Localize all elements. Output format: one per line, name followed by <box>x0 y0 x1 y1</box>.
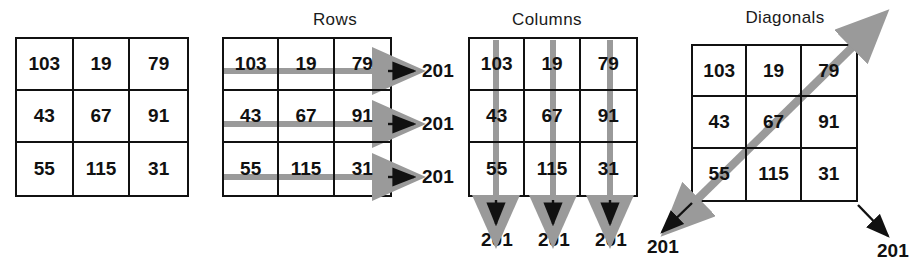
grid-cell: 67 <box>74 91 131 143</box>
magic-square-grid-diagonals: 103 19 79 43 67 91 55 115 31 <box>691 44 858 202</box>
cell-value: 19 <box>763 60 784 82</box>
panel-diagonals: Diagonals 103 19 79 43 67 91 55 115 31 2… <box>645 0 921 269</box>
grid-cell: 55 <box>224 143 279 195</box>
cell-value: 55 <box>709 163 730 185</box>
cell-value: 115 <box>291 158 322 180</box>
grid-cell: 19 <box>74 39 131 91</box>
column-sum-label: 201 <box>481 229 513 251</box>
cell-value: 79 <box>352 53 373 75</box>
cell-value: 19 <box>541 53 562 75</box>
cell-value: 91 <box>148 105 169 127</box>
grid-cell: 79 <box>335 39 390 91</box>
diagonal-sum-label: 201 <box>877 240 909 262</box>
grid-cell: 115 <box>279 143 334 195</box>
cell-value: 43 <box>709 111 730 133</box>
cell-value: 103 <box>28 53 60 75</box>
row-sum-label: 201 <box>422 166 454 188</box>
grid-cell: 55 <box>470 143 525 195</box>
cell-value: 115 <box>537 158 568 180</box>
cell-value: 19 <box>90 53 111 75</box>
panel-rows: Rows 103 19 79 43 67 91 55 115 31 201 20… <box>215 0 465 269</box>
grid-cell: 43 <box>470 91 525 143</box>
cell-value: 43 <box>34 105 55 127</box>
cell-value: 31 <box>598 158 619 180</box>
grid-cell: 67 <box>525 91 580 143</box>
cell-value: 55 <box>486 158 507 180</box>
grid-cell: 91 <box>581 91 636 143</box>
grid-cell: 91 <box>802 97 856 148</box>
cell-value: 31 <box>148 158 169 180</box>
panel-plain-square: 103 19 79 43 67 91 55 115 31 <box>0 0 215 269</box>
grid-cell: 115 <box>747 149 801 200</box>
panel-title-diagonals: Diagonals <box>690 8 880 28</box>
grid-cell: 43 <box>693 97 747 148</box>
grid-cell: 79 <box>130 39 187 91</box>
grid-cell: 103 <box>224 39 279 91</box>
grid-cell: 19 <box>279 39 334 91</box>
grid-cell: 55 <box>693 149 747 200</box>
grid-cell: 79 <box>581 39 636 91</box>
cell-value: 67 <box>295 105 316 127</box>
cell-value: 67 <box>763 111 784 133</box>
cell-value: 79 <box>148 53 169 75</box>
grid-cell: 31 <box>802 149 856 200</box>
cell-value: 103 <box>703 60 735 82</box>
grid-cell: 43 <box>17 91 74 143</box>
cell-value: 103 <box>481 53 513 75</box>
panel-title-columns: Columns <box>452 10 642 30</box>
cell-value: 91 <box>818 111 839 133</box>
cell-value: 67 <box>541 105 562 127</box>
cell-value: 31 <box>818 163 839 185</box>
grid-cell: 31 <box>335 143 390 195</box>
row-sum-label: 201 <box>422 60 454 82</box>
cell-value: 43 <box>240 105 261 127</box>
grid-cell: 79 <box>802 46 856 97</box>
grid-cell: 91 <box>130 91 187 143</box>
grid-cell: 31 <box>581 143 636 195</box>
magic-square-grid-plain: 103 19 79 43 67 91 55 115 31 <box>15 37 189 197</box>
cell-value: 79 <box>818 60 839 82</box>
grid-cell: 103 <box>693 46 747 97</box>
grid-cell: 103 <box>17 39 74 91</box>
cell-value: 43 <box>486 105 507 127</box>
column-sum-label: 201 <box>595 229 627 251</box>
grid-cell: 31 <box>130 143 187 195</box>
cell-value: 103 <box>235 53 267 75</box>
row-sum-label: 201 <box>422 113 454 135</box>
grid-cell: 91 <box>335 91 390 143</box>
cell-value: 91 <box>352 105 373 127</box>
grid-cell: 19 <box>747 46 801 97</box>
magic-square-grid-rows: 103 19 79 43 67 91 55 115 31 <box>222 37 392 197</box>
cell-value: 19 <box>295 53 316 75</box>
cell-value: 55 <box>240 158 261 180</box>
grid-cell: 103 <box>470 39 525 91</box>
column-sum-label: 201 <box>538 229 570 251</box>
diagonal-sum-label: 201 <box>647 236 679 258</box>
cell-value: 115 <box>758 163 789 185</box>
magic-square-grid-columns: 103 19 79 43 67 91 55 115 31 <box>468 37 638 197</box>
cell-value: 91 <box>598 105 619 127</box>
cell-value: 55 <box>34 158 55 180</box>
cell-value: 67 <box>90 105 111 127</box>
cell-value: 79 <box>598 53 619 75</box>
grid-cell: 19 <box>525 39 580 91</box>
grid-cell: 115 <box>74 143 131 195</box>
cell-value: 115 <box>86 158 117 180</box>
grid-cell: 67 <box>747 97 801 148</box>
grid-cell: 43 <box>224 91 279 143</box>
cell-value: 31 <box>352 158 373 180</box>
grid-cell: 67 <box>279 91 334 143</box>
grid-cell: 115 <box>525 143 580 195</box>
grid-cell: 55 <box>17 143 74 195</box>
